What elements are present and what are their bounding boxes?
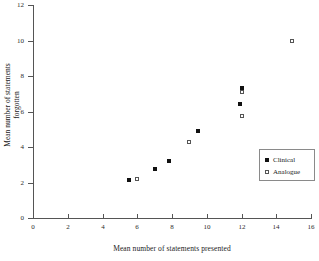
legend-label-analogue: Analogue xyxy=(273,168,300,176)
data-point-clinical xyxy=(127,178,131,182)
x-tick xyxy=(172,214,173,219)
data-point-clinical xyxy=(153,167,157,171)
x-tick xyxy=(103,214,104,219)
x-tick xyxy=(242,214,243,219)
y-tick xyxy=(28,76,34,77)
data-point-clinical xyxy=(167,159,171,163)
x-tick xyxy=(207,214,208,219)
data-point-analogue xyxy=(187,140,191,144)
x-tick-label: 4 xyxy=(95,223,111,231)
y-tick-label: 0 xyxy=(6,214,24,222)
data-point-clinical xyxy=(238,102,242,106)
y-tick xyxy=(28,112,34,113)
legend-marker-clinical-icon xyxy=(265,158,269,162)
y-axis-title-line-1: Mean number of statements xyxy=(3,63,12,147)
data-point-analogue xyxy=(240,114,244,118)
y-tick xyxy=(28,183,34,184)
data-point-analogue xyxy=(240,90,244,94)
y-tick-label: 2 xyxy=(6,179,24,187)
x-tick xyxy=(276,214,277,219)
legend-entry-analogue: Analogue xyxy=(265,167,300,177)
x-tick xyxy=(311,214,312,219)
x-tick xyxy=(68,214,69,219)
y-tick xyxy=(28,41,34,42)
x-tick-label: 2 xyxy=(60,223,76,231)
x-tick-label: 10 xyxy=(199,223,215,231)
x-tick-label: 8 xyxy=(164,223,180,231)
x-tick xyxy=(137,214,138,219)
x-tick xyxy=(33,214,34,219)
x-tick-label: 16 xyxy=(303,223,319,231)
data-point-clinical xyxy=(196,129,200,133)
data-point-analogue xyxy=(135,177,139,181)
x-tick-label: 14 xyxy=(268,223,284,231)
x-tick-label: 6 xyxy=(129,223,145,231)
scatter-chart: 024681012 0246810121416 Mean number of s… xyxy=(0,0,319,261)
y-axis-title: Mean number of statements forgotten xyxy=(3,30,21,180)
y-tick-label: 12 xyxy=(6,1,24,9)
y-tick xyxy=(28,147,34,148)
chart-legend: Clinical Analogue xyxy=(259,149,315,181)
x-tick-label: 0 xyxy=(25,223,41,231)
legend-marker-analogue-icon xyxy=(265,170,269,174)
legend-entry-clinical: Clinical xyxy=(265,155,295,165)
x-tick-label: 12 xyxy=(234,223,250,231)
data-point-analogue xyxy=(290,39,294,43)
legend-label-clinical: Clinical xyxy=(273,156,295,164)
y-tick xyxy=(28,5,34,6)
y-axis-title-line-2: forgotten xyxy=(12,30,21,180)
x-axis-title: Mean number of statements presented xyxy=(33,244,311,253)
